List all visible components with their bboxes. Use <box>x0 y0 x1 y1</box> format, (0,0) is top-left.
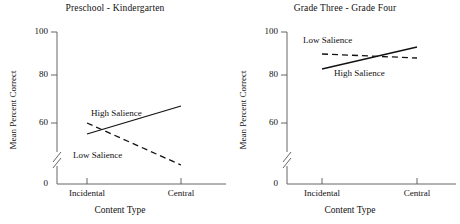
y-tick-label-0: 0 <box>24 178 48 188</box>
panel-grade-three-four: Grade Three - Grade Four Mean Percent Co… <box>230 0 460 224</box>
y-tick-label-60: 60 <box>254 117 278 127</box>
x-tick-label-incidental: Incidental <box>287 188 357 198</box>
y-tick-label-100: 100 <box>254 26 278 36</box>
series-label-high-salience: High Salience <box>91 108 142 118</box>
series-label-low-salience: Low Salience <box>73 150 122 160</box>
y-tick-label-80: 80 <box>254 69 278 79</box>
axis-break-slash-1 <box>283 152 291 162</box>
y-tick-label-100: 100 <box>24 26 48 36</box>
y-tick-label-60: 60 <box>24 117 48 127</box>
axis-break-slash-1 <box>53 152 61 162</box>
x-tick-label-incidental: Incidental <box>52 188 122 198</box>
series-label-high-salience: High Salience <box>334 68 385 78</box>
panel-preschool-kindergarten: Preschool - Kindergarten Mean Percent Co… <box>0 0 230 224</box>
x-axis-label: Content Type <box>30 205 210 215</box>
y-tick-label-80: 80 <box>24 69 48 79</box>
x-tick-label-central: Central <box>387 188 447 198</box>
series-label-low-salience: Low Salience <box>303 35 352 45</box>
y-tick-label-0: 0 <box>254 178 278 188</box>
x-axis-label: Content Type <box>260 205 440 215</box>
x-tick-label-central: Central <box>151 188 211 198</box>
figure-container: Preschool - Kindergarten Mean Percent Co… <box>0 0 460 224</box>
